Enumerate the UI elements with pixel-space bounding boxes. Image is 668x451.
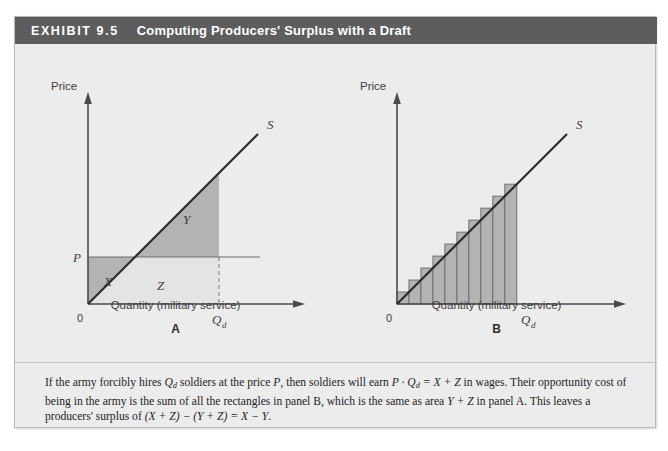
panel-b-x-axis-title: Quantity (military service) — [336, 299, 657, 311]
caption-seg-2: soldiers at the price — [177, 376, 273, 389]
bar — [493, 196, 505, 304]
panel-a-letter: A — [15, 322, 336, 336]
caption-surplus-eq: (X + Z) − (Y + Z) = X − Y — [145, 410, 269, 423]
bar — [505, 184, 517, 304]
exhibit-number: EXHIBIT 9.5 — [31, 24, 119, 38]
exhibit-caption: If the army forcibly hires Qd soldiers a… — [15, 362, 657, 428]
panel-b-letter: B — [336, 322, 657, 336]
panels-container: Price P 0 Q d S X Y Z Quantity (military… — [15, 44, 657, 362]
panel-a-chart: Price P 0 Q d S X Y Z — [15, 44, 336, 362]
panel-b-y-axis-label: Price — [360, 80, 386, 92]
bar — [469, 220, 481, 304]
exhibit-figure: EXHIBIT 9.5 Computing Producers' Surplus… — [0, 0, 668, 451]
panel-a-x-axis-title: Quantity (military service) — [15, 299, 336, 311]
caption-yz: Y + Z — [447, 395, 474, 408]
region-x-label: X — [103, 274, 113, 289]
panel-b-supply-label: S — [576, 117, 583, 132]
panel-a: Price P 0 Q d S X Y Z Quantity (military… — [15, 44, 336, 362]
panel-a-price-label: P — [72, 250, 81, 265]
caption-q: Q — [164, 376, 172, 389]
panel-a-y-axis-label: Price — [51, 80, 77, 92]
panel-a-supply-label: S — [267, 117, 274, 132]
exhibit-header: EXHIBIT 9.5 Computing Producers' Surplus… — [15, 17, 657, 44]
caption-seg-6: . — [268, 410, 271, 423]
bar — [481, 208, 493, 304]
caption-seg-3: , then soldiers will earn — [280, 376, 391, 389]
caption-pq: P · Q — [392, 376, 416, 389]
panel-b-chart: Price 0 Q d S — [336, 44, 657, 362]
exhibit-frame: EXHIBIT 9.5 Computing Producers' Surplus… — [14, 16, 656, 428]
panel-b: Price 0 Q d S Quantity (military service… — [336, 44, 657, 362]
panel-b-y-axis-arrow — [393, 92, 401, 104]
region-z-label: Z — [157, 278, 165, 293]
caption-seg-1: If the army forcibly hires — [45, 376, 164, 389]
caption-eq: = X + Z — [420, 376, 461, 389]
panel-a-y-axis-arrow — [84, 92, 92, 104]
exhibit-title: Computing Producers' Surplus with a Draf… — [137, 23, 411, 38]
caption-text: If the army forcibly hires Qd soldiers a… — [45, 375, 631, 425]
